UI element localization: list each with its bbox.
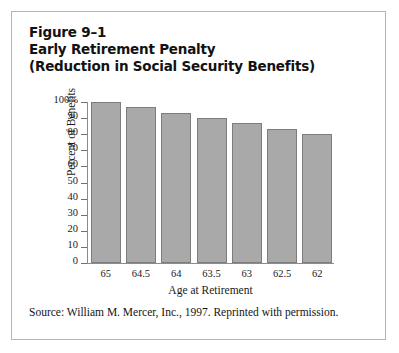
bar-chart: Percent of Benefits 100%9080706050403020… (29, 84, 369, 284)
figure-title-line-2: (Reduction in Social Security Benefits) (29, 58, 359, 75)
x-axis-line (87, 263, 334, 264)
y-axis-tick-mark (81, 102, 87, 103)
y-axis-tick-label: 20 (38, 223, 78, 234)
bar-slot (126, 101, 156, 263)
bar (267, 129, 297, 263)
y-axis-tick-mark (81, 247, 87, 248)
bar (197, 118, 227, 263)
figure-title-line-1: Early Retirement Penalty (29, 41, 359, 58)
source-note: Source: William M. Mercer, Inc., 1997. R… (29, 304, 359, 320)
bar-slot (267, 101, 297, 263)
bar-slot (91, 101, 121, 263)
bar-slot (197, 101, 227, 263)
y-axis-tick-mark (81, 134, 87, 135)
figure-number-label: Figure 9–1 (29, 24, 359, 41)
y-axis-tick-label: 60 (38, 158, 78, 169)
y-axis-tick-label: 40 (38, 191, 78, 202)
y-axis-tick-mark (81, 215, 87, 216)
bar-series (88, 102, 334, 263)
y-axis-tick-mark (81, 231, 87, 232)
y-axis-tick-mark (81, 199, 87, 200)
y-axis-tick-label: 0 (38, 255, 78, 266)
bar-slot (302, 101, 332, 263)
bar-slot (161, 101, 191, 263)
y-axis-tick-mark (81, 118, 87, 119)
bar (91, 102, 121, 263)
y-axis-tick-label: 30 (38, 207, 78, 218)
y-axis-tick-mark (81, 183, 87, 184)
figure-box: Figure 9–1 Early Retirement Penalty (Red… (11, 11, 386, 340)
plot-area: 100%9080706050403020100 6564.56463.56362… (87, 102, 334, 264)
y-axis-tick-label: 70 (38, 142, 78, 153)
y-axis-tick-mark (81, 150, 87, 151)
bar (161, 113, 191, 263)
bar-slot (232, 101, 262, 263)
figure-title-block: Figure 9–1 Early Retirement Penalty (Red… (29, 24, 359, 75)
x-axis-title: Age at Retirement (87, 284, 334, 296)
y-axis-tick-mark (81, 166, 87, 167)
y-axis-tick-label: 50 (38, 175, 78, 186)
y-axis-tick-label: 90 (38, 110, 78, 121)
y-axis-tick-label: 100% (38, 94, 78, 105)
bar (302, 134, 332, 263)
bar (232, 123, 262, 263)
y-axis-tick-label: 80 (38, 126, 78, 137)
x-axis-tick-label: 62 (295, 268, 339, 279)
y-axis-tick-label: 10 (38, 239, 78, 250)
bar (126, 107, 156, 263)
